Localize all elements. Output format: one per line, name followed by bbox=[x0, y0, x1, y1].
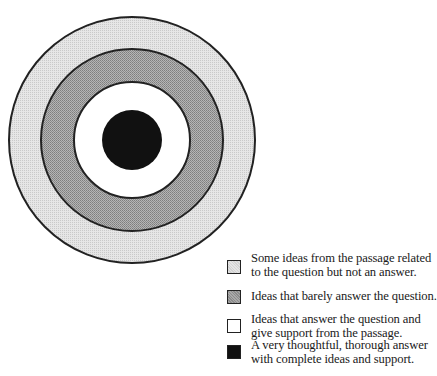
white-swatch-icon bbox=[227, 319, 241, 333]
bullseye bbox=[102, 110, 162, 170]
legend-line: with complete ideas and support. bbox=[251, 353, 428, 367]
medium-gray-swatch-icon bbox=[227, 290, 241, 304]
legend-line: to the question but not an answer. bbox=[251, 266, 431, 280]
legend-text: A very thoughtful, thorough answer with … bbox=[251, 339, 428, 366]
legend-text: Ideas that answer the question and give … bbox=[251, 313, 421, 340]
legend-line: A very thoughtful, thorough answer bbox=[251, 339, 428, 353]
legend-text: Some ideas from the passage related to t… bbox=[251, 252, 431, 279]
light-gray-swatch-icon bbox=[227, 260, 241, 274]
legend-text: Ideas that barely answer the question. bbox=[251, 290, 437, 304]
legend-line: Ideas that barely answer the question. bbox=[251, 290, 437, 304]
legend-line: Ideas that answer the question and bbox=[251, 313, 421, 327]
legend-line: Some ideas from the passage related bbox=[251, 252, 431, 266]
black-swatch-icon bbox=[227, 345, 241, 359]
target-diagram bbox=[0, 0, 280, 280]
